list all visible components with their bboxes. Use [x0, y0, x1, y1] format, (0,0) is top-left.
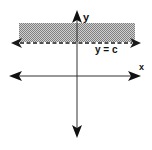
boundary-label: y = c	[95, 44, 118, 55]
x-axis	[9, 71, 141, 81]
x-axis-label: x	[139, 62, 144, 72]
coordinate-plane: y y = c x	[0, 0, 152, 150]
y-axis-label: y	[83, 11, 90, 23]
